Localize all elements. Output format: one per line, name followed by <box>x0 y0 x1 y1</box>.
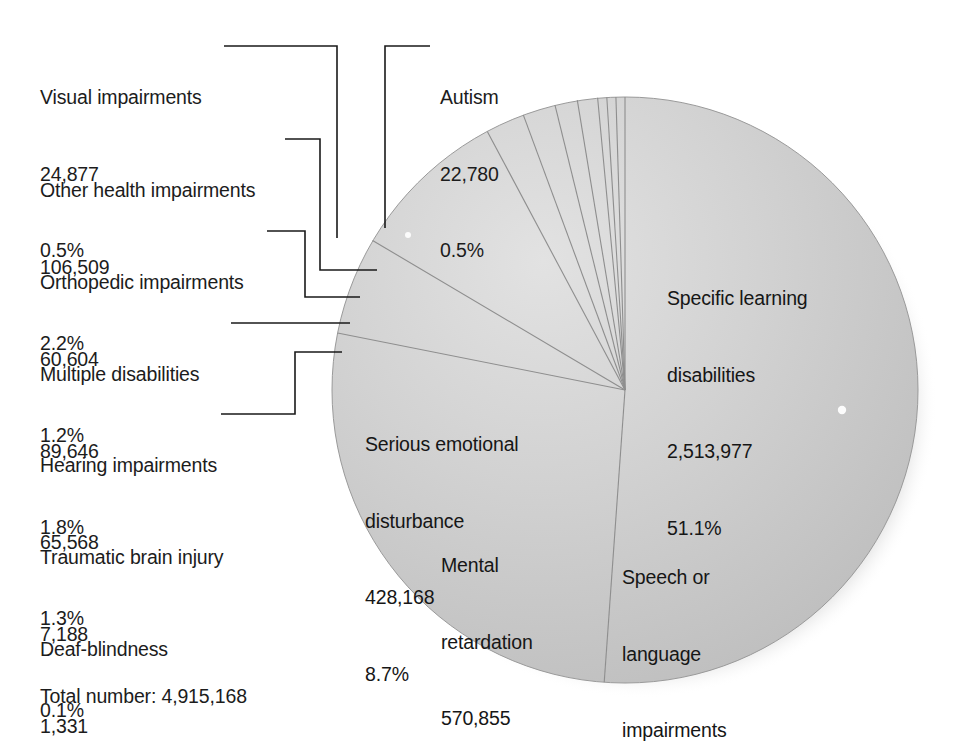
slice-divider-hi-end <box>577 100 625 390</box>
slice-divider-autism-end <box>616 97 625 390</box>
callout-label: Hearing impairments <box>40 453 217 479</box>
callout-label: Other health impairments <box>40 178 255 204</box>
pie-label-value: 570,855 <box>441 706 533 732</box>
pie-label-speech-or-language-impairments: Speech or language impairments 1,023,665… <box>622 514 727 743</box>
leader-line-autism <box>385 46 430 228</box>
callout-label: Autism <box>440 85 499 111</box>
callout-percent: 0.5% <box>440 238 499 264</box>
pie-label-line1: Speech or <box>622 565 727 591</box>
pie-label-line1: Mental <box>441 553 533 579</box>
slice-divider-md-end <box>555 105 625 390</box>
callout-autism: Autism 22,780 0.5% <box>440 34 499 315</box>
pie-highlight-right <box>838 406 846 414</box>
pie-label-line1: Serious emotional <box>365 432 519 458</box>
slice-divider-oi-end <box>598 98 625 390</box>
pie-label-line2: disabilities <box>667 363 808 389</box>
pie-highlight-left <box>405 232 411 238</box>
slice-divider-mental-end <box>373 241 625 391</box>
pie-label-line2: language <box>622 642 727 668</box>
pie-label-line2: retardation <box>441 630 533 656</box>
slice-divider-vi-end <box>607 97 625 390</box>
pie-label-mental-retardation: Mental retardation 570,855 11.6% <box>441 502 533 743</box>
pie-label-value: 2,513,977 <box>667 439 808 465</box>
callout-value: 22,780 <box>440 162 499 188</box>
leader-line-orthopedic-impairments <box>267 231 360 297</box>
callout-label: Multiple disabilities <box>40 362 199 388</box>
callout-label: Deaf-blindness <box>40 637 168 663</box>
callout-label: Traumatic brain injury <box>40 545 223 571</box>
callout-deaf-blindness: Deaf-blindness 1,331 0.0% <box>40 586 168 743</box>
slice-divider-sed-end <box>487 131 625 390</box>
pie-label-line3: impairments <box>622 718 727 743</box>
callout-label: Orthopedic impairments <box>40 270 244 296</box>
pie-chart-figure: Visual impairments 24,877 0.5% Other hea… <box>0 0 955 743</box>
pie-label-line1: Specific learning <box>667 286 808 312</box>
leader-line-other-health-impairments <box>285 139 377 270</box>
total-number-label: Total number: 4,915,168 <box>40 684 247 709</box>
callout-value: 1,331 <box>40 714 168 740</box>
slice-divider-ohi-end <box>523 115 625 390</box>
cropped-header-remnant <box>138 0 318 6</box>
callout-label: Visual impairments <box>40 85 202 111</box>
